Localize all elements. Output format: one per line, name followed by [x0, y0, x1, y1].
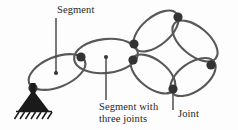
hatch-mark [20, 112, 25, 119]
leader-segment-three-joints-dot [104, 55, 108, 59]
support-hatching [15, 112, 53, 119]
label-joint: Joint [178, 108, 199, 120]
leader-lines-group [54, 18, 173, 110]
label-segment-with-three-joints-line2: three joints [99, 113, 147, 124]
joint-ring-right [206, 60, 215, 69]
leader-segment-dot [54, 71, 58, 75]
joint-ring-top [173, 12, 182, 21]
fixed-ground-support [15, 83, 53, 119]
segments-group [24, 3, 225, 104]
joint-1-2 [76, 52, 85, 61]
joint-ring-bottom-labeled [168, 84, 177, 93]
label-segment-with-three-joints: Segment withthree joints [99, 101, 158, 124]
joint-2-upper-right [129, 39, 138, 48]
joint-2-lower-right [128, 55, 137, 64]
hatch-mark [15, 112, 20, 119]
hatch-mark [31, 112, 36, 119]
segment-3-ring-upper-left [126, 3, 185, 59]
hatch-mark [48, 112, 53, 119]
support-triangle [18, 90, 49, 111]
hatch-mark [42, 112, 47, 119]
hatch-mark [37, 112, 42, 119]
mechanism-diagram: Segment Segment withthree joints Joint [0, 0, 238, 130]
hatch-mark [26, 112, 31, 119]
label-segment: Segment [57, 4, 94, 16]
label-segment-with-three-joints-line1: Segment with [99, 101, 158, 112]
